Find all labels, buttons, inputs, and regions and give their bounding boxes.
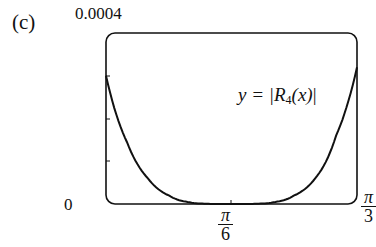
curve-label-R: R [274, 84, 286, 105]
curve-label-suffix: | [313, 84, 317, 105]
x-right-denominator: 3 [361, 207, 376, 225]
x-mid-denominator: 6 [218, 225, 233, 243]
x-right-numerator: π [361, 188, 376, 207]
curve-label-prefix: y = | [238, 84, 274, 105]
curve-label-arg: (x) [292, 84, 313, 105]
x-axis-label-pi-over-3: π 3 [361, 188, 376, 225]
curve-label: y = |R4(x)| [238, 84, 317, 108]
remainder-curve [106, 67, 357, 204]
plot-frame [106, 33, 357, 204]
x-axis-label-pi-over-6: π 6 [218, 206, 233, 243]
x-mid-numerator: π [218, 206, 233, 225]
